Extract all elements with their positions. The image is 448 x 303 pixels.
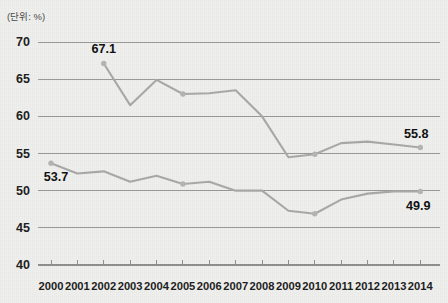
y-tick-label: 70 xyxy=(6,36,30,49)
x-tick-label: 2008 xyxy=(250,281,275,292)
y-axis: 40455055606570 xyxy=(6,0,30,303)
x-tick-label: 2005 xyxy=(170,281,195,292)
plot-area xyxy=(0,0,448,303)
x-tick-label: 2010 xyxy=(302,281,327,292)
x-tick-label: 2013 xyxy=(381,281,406,292)
series-line-upper-series xyxy=(104,64,421,158)
chart-container: (단위: %) 40455055606570 20002001200220032… xyxy=(0,0,448,303)
x-tick-label: 2012 xyxy=(355,281,380,292)
x-tick-label: 2004 xyxy=(144,281,169,292)
y-tick-label: 55 xyxy=(6,147,30,160)
x-tick-label: 2006 xyxy=(197,281,222,292)
data-value-label: 67.1 xyxy=(91,42,116,55)
x-tick-label: 2001 xyxy=(65,281,90,292)
x-tick-label: 2007 xyxy=(223,281,248,292)
data-point-marker xyxy=(312,152,317,157)
data-point-marker xyxy=(312,211,317,216)
y-tick-label: 50 xyxy=(6,184,30,197)
data-point-marker xyxy=(180,91,185,96)
x-tick-label: 2003 xyxy=(118,281,143,292)
data-point-marker xyxy=(180,181,185,186)
x-tick-label: 2000 xyxy=(39,281,64,292)
x-axis-ticks xyxy=(51,260,420,265)
data-value-label: 55.8 xyxy=(404,127,429,140)
data-value-label: 53.7 xyxy=(44,171,69,184)
x-tick-label: 2011 xyxy=(329,281,353,292)
y-tick-label: 40 xyxy=(6,259,30,272)
x-tick-label: 2014 xyxy=(408,281,433,292)
series-lines xyxy=(51,64,420,214)
data-value-label: 49.9 xyxy=(406,200,431,213)
x-tick-label: 2009 xyxy=(276,281,301,292)
y-tick-label: 65 xyxy=(6,73,30,86)
data-point-marker xyxy=(101,61,106,66)
data-point-marker xyxy=(418,189,423,194)
x-tick-label: 2002 xyxy=(91,281,116,292)
data-point-marker xyxy=(418,145,423,150)
y-tick-label: 45 xyxy=(6,222,30,235)
gridlines xyxy=(38,42,440,265)
series-line-lower-series xyxy=(51,163,420,214)
y-tick-label: 60 xyxy=(6,110,30,123)
data-point-marker xyxy=(48,160,53,165)
